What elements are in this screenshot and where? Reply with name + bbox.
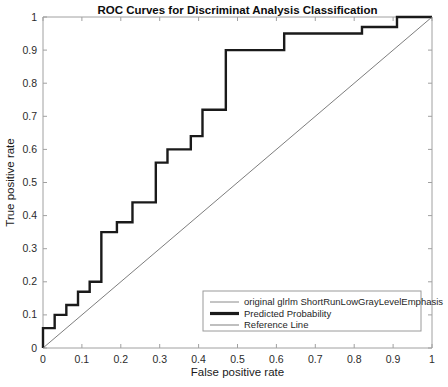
x-tick-label: 0.7 — [308, 353, 323, 365]
x-tick-label: 0.8 — [347, 353, 362, 365]
y-tick-label: 0.1 — [22, 308, 37, 320]
chart-legend[interactable]: original glrlm ShortRunLowGrayLevelEmpha… — [203, 291, 443, 331]
legend-label: original glrlm ShortRunLowGrayLevelEmpha… — [244, 296, 443, 307]
x-tick-label: 1 — [429, 353, 435, 365]
x-tick-label: 0.3 — [152, 353, 167, 365]
y-tick-label: 0.6 — [22, 143, 37, 155]
figure-container: ROC Curves for Discriminat Analysis Clas… — [0, 0, 448, 387]
y-tick-label: 0.7 — [22, 110, 37, 122]
y-tick-label: 0.2 — [22, 275, 37, 287]
x-tick-label: 0.5 — [230, 353, 245, 365]
y-tick-label: 0.3 — [22, 242, 37, 254]
y-tick-label: 0.4 — [22, 209, 37, 221]
x-tick-label: 0.2 — [113, 353, 128, 365]
legend-label: Predicted Probability — [244, 308, 331, 319]
chart-title: ROC Curves for Discriminat Analysis Clas… — [97, 4, 377, 16]
x-tick-label: 0.4 — [191, 353, 206, 365]
y-tick-label: 0.8 — [22, 77, 37, 89]
y-tick-label: 0 — [31, 342, 37, 354]
y-tick-label: 0.9 — [22, 44, 37, 56]
y-tick-label: 0.5 — [22, 176, 37, 188]
y-axis-title: True positive rate — [4, 138, 16, 226]
y-tick-label: 1 — [31, 11, 37, 23]
x-tick-label: 0.9 — [386, 353, 401, 365]
x-axis-title: False positive rate — [191, 366, 284, 378]
roc-chart: ROC Curves for Discriminat Analysis Clas… — [0, 0, 448, 387]
legend-label: Reference Line — [244, 319, 308, 330]
x-tick-label: 0 — [40, 353, 46, 365]
x-tick-label: 0.1 — [75, 353, 90, 365]
x-tick-label: 0.6 — [269, 353, 284, 365]
